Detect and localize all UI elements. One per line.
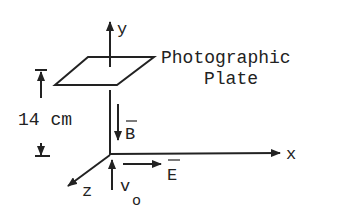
x-axis-label: x bbox=[286, 145, 296, 164]
velocity-label: v bbox=[120, 177, 130, 196]
distance-label: 14 cm bbox=[18, 110, 72, 130]
plate-label-line2: Plate bbox=[204, 69, 258, 89]
x-axis bbox=[110, 153, 280, 154]
y-axis-label: y bbox=[117, 20, 127, 39]
diagram-canvas: y Photographic Plate x z B E v o 14 cm bbox=[0, 0, 345, 212]
velocity-subscript: o bbox=[132, 193, 141, 210]
magnetic-field-label: B bbox=[125, 125, 135, 144]
photographic-plate bbox=[55, 57, 154, 85]
electric-field-label: E bbox=[167, 166, 177, 185]
plate-label-line1: Photographic bbox=[161, 48, 291, 68]
z-axis-label: z bbox=[82, 182, 92, 201]
